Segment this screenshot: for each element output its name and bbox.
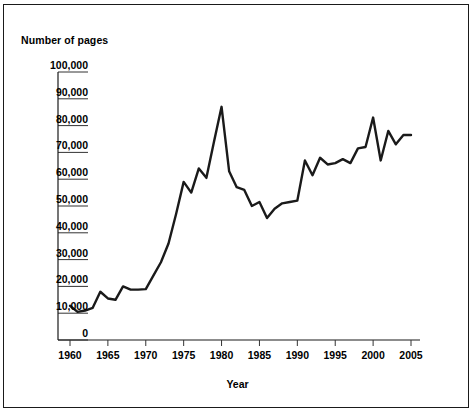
y-tick-label: 0 <box>82 327 88 339</box>
y-tick-label: 10,000 <box>56 300 88 312</box>
chart-figure: Number of pages Year 010,00020,00030,000… <box>0 0 475 420</box>
data-line <box>70 107 411 312</box>
x-tick-label: 2005 <box>381 349 441 361</box>
y-tick-label: 60,000 <box>56 166 88 178</box>
y-tick-label: 100,000 <box>50 59 88 71</box>
y-tick-label: 20,000 <box>56 273 88 285</box>
y-tick-label: 40,000 <box>56 220 88 232</box>
y-tick-label: 80,000 <box>56 113 88 125</box>
data-series-group <box>70 107 411 312</box>
x-tick-group <box>70 340 411 346</box>
y-tick-label: 50,000 <box>56 193 88 205</box>
y-tick-label: 90,000 <box>56 86 88 98</box>
y-tick-label: 30,000 <box>56 247 88 259</box>
y-tick-label: 70,000 <box>56 139 88 151</box>
